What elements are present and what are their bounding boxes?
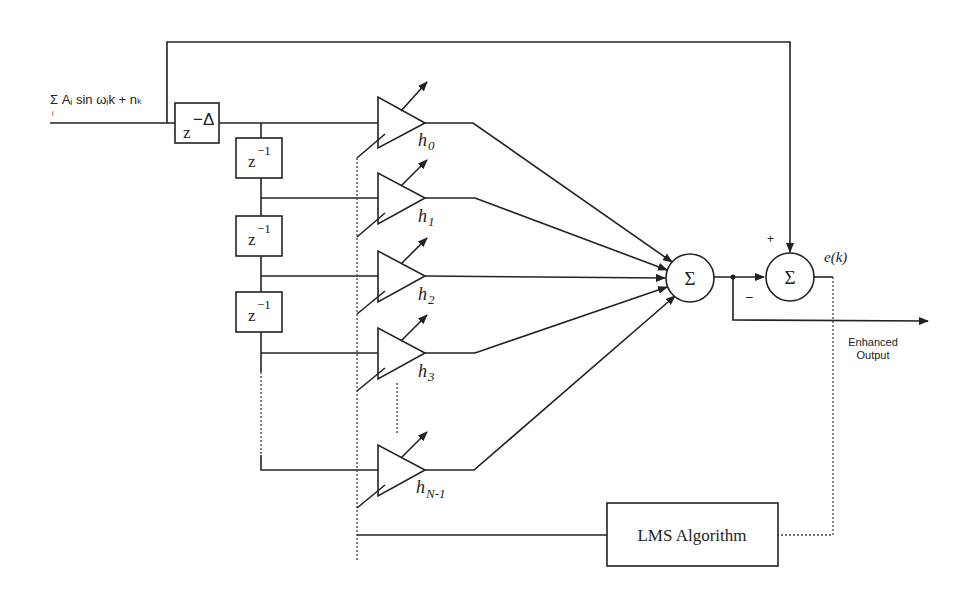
adaptive-line-enhancer-diagram: Σ Aᵢ sin ωᵢk + nₖ i z −Δ z −1 z −1 z −1 — [0, 0, 973, 597]
svg-text:N-1: N-1 — [425, 486, 446, 501]
adjust-arrow-icon — [401, 432, 427, 458]
weighted-line-0 — [425, 123, 672, 262]
tap-line-n-1 — [261, 455, 378, 470]
input-signal-label: Σ Aᵢ sin ωᵢk + nₖ i — [50, 92, 143, 117]
svg-text:z: z — [248, 306, 256, 325]
svg-text:Σ: Σ — [684, 268, 695, 289]
svg-text:z: z — [248, 152, 256, 171]
minus-sign: − — [745, 289, 753, 305]
svg-text:Σ Aᵢ sin ωᵢk + nₖ: Σ Aᵢ sin ωᵢk + nₖ — [50, 92, 143, 107]
output-label: Output — [856, 349, 889, 361]
svg-text:Σ: Σ — [784, 267, 795, 288]
error-feedback-line — [778, 277, 833, 535]
enhanced-output-line — [733, 277, 928, 321]
weight-h0: h 0 — [357, 82, 435, 158]
delay-block-z-delta: z −Δ — [175, 103, 219, 143]
error-summer: Σ — [766, 253, 814, 301]
unit-delay-block-3: z −1 — [236, 292, 282, 332]
weighted-line-2 — [425, 276, 665, 278]
svg-text:−1: −1 — [257, 143, 271, 158]
svg-text:h: h — [418, 361, 427, 381]
svg-text:z: z — [183, 123, 191, 142]
svg-text:−1: −1 — [257, 221, 271, 236]
svg-text:3: 3 — [427, 369, 435, 384]
output-summer: Σ — [666, 254, 714, 302]
adjust-arrow-icon — [401, 82, 427, 111]
unit-delay-block-1: z −1 — [236, 138, 282, 178]
adjust-arrow-icon — [401, 238, 427, 264]
svg-text:h: h — [416, 477, 425, 497]
output-label: Enhanced — [848, 336, 898, 348]
error-label: e(k) — [824, 249, 847, 266]
svg-text:0: 0 — [428, 138, 435, 153]
svg-text:h: h — [418, 206, 427, 226]
svg-text:h: h — [418, 284, 427, 304]
plus-sign: + — [767, 232, 774, 246]
svg-text:z: z — [248, 230, 256, 249]
unit-delay-block-2: z −1 — [236, 216, 282, 256]
svg-text:LMS Algorithm: LMS Algorithm — [637, 526, 746, 545]
svg-text:1: 1 — [428, 214, 435, 229]
svg-text:−Δ: −Δ — [193, 110, 214, 129]
svg-text:2: 2 — [428, 292, 435, 307]
svg-text:−1: −1 — [257, 297, 271, 312]
adjust-arrow-icon — [401, 160, 427, 186]
svg-text:h: h — [418, 130, 427, 150]
weighted-line-3 — [425, 287, 667, 353]
weighted-line-n-1 — [425, 296, 675, 470]
lms-algorithm-block: LMS Algorithm — [607, 503, 778, 566]
adjust-arrow-icon — [401, 315, 427, 341]
svg-text:i: i — [52, 110, 54, 117]
